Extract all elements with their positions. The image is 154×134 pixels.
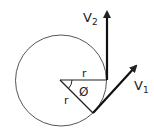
label-v2: V2 <box>83 10 98 27</box>
label-angle-phi: Ø <box>79 85 88 99</box>
label-r-diagonal: r <box>64 94 69 107</box>
vector-v1-arrow <box>93 66 136 113</box>
label-v1: V1 <box>134 78 149 95</box>
label-r-top: r <box>82 67 87 80</box>
angle-arc <box>69 80 73 89</box>
diagram-canvas: V2 V1 r r Ø <box>0 0 154 134</box>
